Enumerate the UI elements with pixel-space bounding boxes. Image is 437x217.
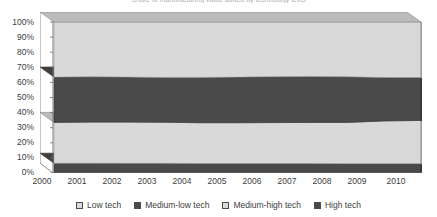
legend-label: Low tech [87,201,121,210]
y-tick-label: 30% [17,123,34,132]
legend-swatch-icon [76,202,83,209]
area-band-side-face [421,164,422,173]
legend-item-medium-high-tech[interactable]: Medium-high tech [222,201,301,210]
chart-title: Share of manufacturing value added by te… [0,0,437,3]
area-band-side-face [421,22,422,83]
legend-swatch-icon [314,202,321,209]
legend-label: Medium-high tech [233,201,301,210]
y-tick-label: 50% [17,93,34,102]
x-tick-label: 2003 [138,177,157,186]
x-tick-label: 2007 [278,177,297,186]
legend-label: High tech [325,201,361,210]
legend-swatch-icon [222,202,229,209]
legend-item-medium-low-tech[interactable]: Medium-low tech [134,201,209,210]
axis-depth-connector [40,163,53,173]
x-axis-labels: 2000 2001 2002 2003 2004 2005 2006 2007 … [0,177,437,191]
x-tick-label: 2000 [33,177,52,186]
area-band-medium-high-tech [54,120,421,163]
legend-swatch-icon [134,202,141,209]
y-tick-label: 20% [17,138,34,147]
stacked-area-chart: Share of manufacturing value added by te… [0,0,437,217]
chart-legend: Low tech Medium-low tech Medium-high tec… [0,198,437,212]
area-band-top-face [40,12,421,22]
plot-area [40,12,422,173]
y-tick-label: 40% [17,108,34,117]
x-tick-label: 2005 [208,177,227,186]
y-tick-label: 10% [17,153,34,162]
y-tick-label: 70% [17,63,34,72]
area-band-side-face [421,78,422,126]
x-tick-label: 2004 [173,177,192,186]
y-tick-label: 80% [17,48,34,57]
y-tick-label: 100% [12,18,34,27]
area-plot-svg [40,12,422,173]
x-tick-label: 2006 [243,177,262,186]
area-band-medium-low-tech [54,77,421,123]
x-tick-label: 2009 [348,177,367,186]
y-tick-label: 90% [17,33,34,42]
area-band-side-face [421,120,422,169]
area-band-low-tech [54,22,421,78]
legend-item-high-tech[interactable]: High tech [314,201,361,210]
x-tick-label: 2001 [68,177,87,186]
legend-label: Medium-low tech [145,201,209,210]
x-tick-label: 2008 [313,177,332,186]
y-tick-label: 60% [17,78,34,87]
x-tick-label: 2010 [387,177,406,186]
legend-item-low-tech[interactable]: Low tech [76,201,121,210]
x-tick-label: 2002 [103,177,122,186]
area-band-high-tech [54,163,421,173]
